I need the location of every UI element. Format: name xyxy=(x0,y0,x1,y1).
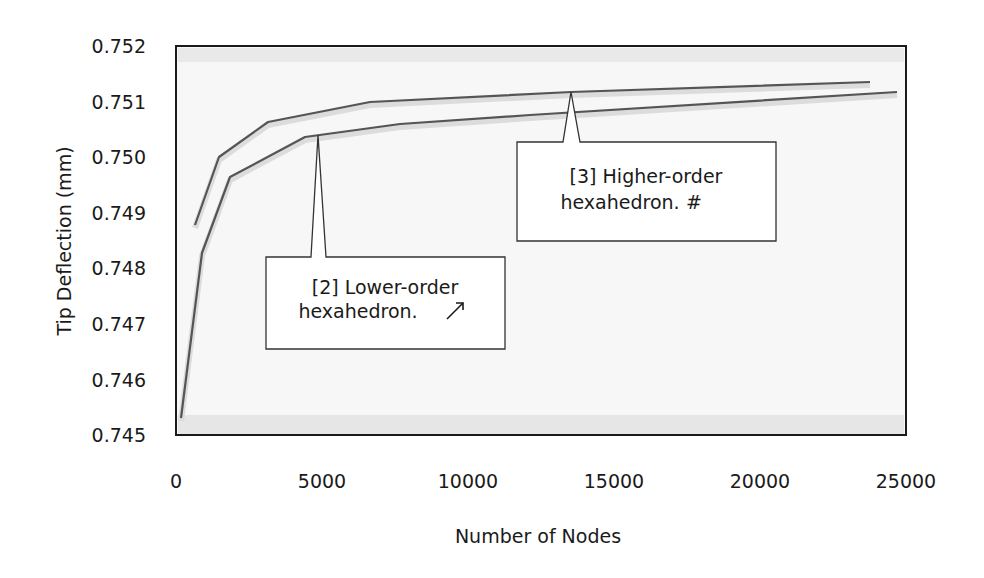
y-tick: 0.750 xyxy=(92,146,146,168)
bottom-band xyxy=(178,415,904,434)
x-tick: 10000 xyxy=(438,470,498,492)
x-tick: 20000 xyxy=(730,470,790,492)
top-band xyxy=(178,48,904,62)
y-axis-title: Tip Deflection (mm) xyxy=(53,146,75,336)
x-axis-title: Number of Nodes xyxy=(455,525,621,547)
x-tick: 0 xyxy=(170,470,182,492)
callout-2-line1: [2] Lower-order xyxy=(312,276,459,298)
chart: 0.752 0.751 0.750 0.749 0.748 0.747 0.74… xyxy=(0,0,984,578)
callout-3-line1: [3] Higher-order xyxy=(570,165,723,187)
x-tick: 5000 xyxy=(298,470,346,492)
y-axis-ticks: 0.752 0.751 0.750 0.749 0.748 0.747 0.74… xyxy=(92,35,146,446)
y-tick: 0.749 xyxy=(92,202,146,224)
y-tick: 0.748 xyxy=(92,257,146,279)
callout-2-line2: hexahedron. xyxy=(298,300,417,322)
x-tick: 25000 xyxy=(876,470,936,492)
hash-icon: # xyxy=(686,191,702,213)
y-tick: 0.751 xyxy=(92,91,146,113)
y-tick: 0.752 xyxy=(92,35,146,57)
y-tick: 0.747 xyxy=(92,313,146,335)
x-axis-ticks: 0 5000 10000 15000 20000 25000 xyxy=(170,470,936,492)
y-tick: 0.746 xyxy=(92,369,146,391)
callout-3-line2: hexahedron. xyxy=(560,191,679,213)
y-tick: 0.745 xyxy=(92,424,146,446)
x-tick: 15000 xyxy=(584,470,644,492)
